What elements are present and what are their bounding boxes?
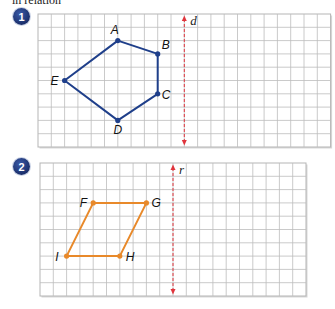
vertex-label-B: B [162,38,170,52]
vertex-point-H [117,254,122,259]
vertex-point-I [64,254,69,259]
vertex-label-F: F [80,196,88,210]
vertex-label-G: G [151,196,160,210]
vertex-label-E: E [51,74,60,88]
vertex-point-E [62,78,67,83]
figure-2: rFGHI [40,162,308,298]
vertex-label-C: C [162,88,171,102]
vertex-point-G [144,200,149,205]
vertex-point-F [91,200,96,205]
vertex-point-C [155,91,160,96]
vertex-label-D: D [113,123,122,137]
vertex-point-B [155,51,160,56]
vertex-label-H: H [126,250,135,264]
vertex-point-D [115,118,120,123]
axis-label: d [190,13,197,28]
figure-1: dABCDE [38,13,332,149]
vertex-point-A [115,38,120,43]
vertex-label-A: A [110,23,119,37]
figures-canvas: dABCDErFGHI [0,0,335,309]
